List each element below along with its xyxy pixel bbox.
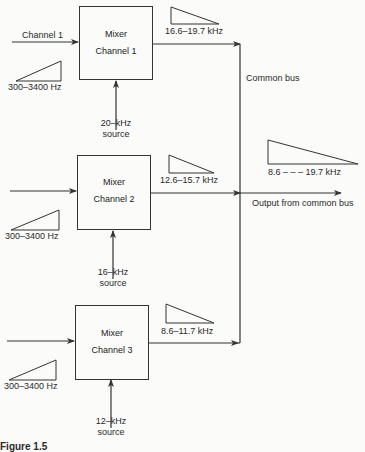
channel-1-output-band: 16.6–19.7 kHz [165, 26, 223, 37]
combined-output-spectrum-icon [268, 140, 358, 164]
common-bus-label: Common bus [246, 73, 300, 84]
channel-3-output-band: 8.6–11.7 kHz [161, 326, 213, 337]
channel-3-input-band: 300–3400 Hz [4, 381, 58, 392]
mixer-3-channel: Channel 3 [76, 345, 148, 355]
mixer-channel-1-box: Mixer Channel 1 [79, 6, 153, 80]
mixer-3-title: Mixer [76, 328, 148, 338]
mixer-channel-3-box: Mixer Channel 3 [75, 305, 149, 380]
mixer-1-title: Mixer [80, 29, 152, 39]
source-1-label: 20–kHz source [96, 118, 136, 140]
figure-caption: Figure 1.5 [0, 441, 47, 452]
source-3-word: source [91, 427, 131, 438]
source-1-word: source [96, 129, 136, 140]
source-1-frequency: 20–kHz [96, 118, 136, 129]
channel-2-input-spectrum-icon [11, 210, 59, 230]
mixer-2-title: Mixer [78, 177, 150, 187]
mixer-channel-2-box: Mixer Channel 2 [77, 155, 151, 230]
source-3-label: 12–kHz source [91, 416, 131, 438]
channel-3-input-spectrum-icon [9, 360, 56, 380]
source-2-word: source [93, 278, 133, 289]
mixer-2-channel: Channel 2 [78, 194, 150, 204]
channel-3-output-spectrum-icon [166, 304, 214, 323]
channel-2-output-band: 12.6–15.7 kHz [160, 175, 218, 186]
output-from-bus-label: Output from common bus [252, 198, 354, 209]
source-3-frequency: 12–kHz [91, 416, 131, 427]
channel-1-output-spectrum-icon [171, 7, 219, 24]
mixer-1-channel: Channel 1 [80, 46, 152, 56]
channel-1-input-label: Channel 1 [22, 30, 63, 41]
combined-output-band: 8.6 – – – 19.7 kHz [268, 167, 341, 178]
channel-2-output-spectrum-icon [169, 155, 214, 173]
source-2-frequency: 16–kHz [93, 267, 133, 278]
channel-1-input-spectrum-icon [16, 61, 61, 81]
channel-1-input-band: 300–3400 Hz [8, 82, 62, 93]
channel-2-input-band: 300–3400 Hz [5, 231, 59, 242]
source-2-label: 16–kHz source [93, 267, 133, 289]
